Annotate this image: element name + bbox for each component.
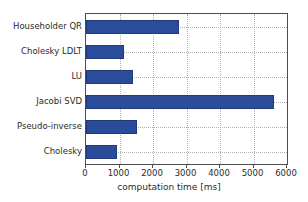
x-axis-tick-label: 4000 xyxy=(208,168,230,179)
y-axis-tick-label: Cholesky LDLT xyxy=(2,46,82,56)
y-axis-tick-label: LU xyxy=(2,71,82,81)
gridline-vertical xyxy=(287,14,288,164)
x-axis-tick-labels: 0100020003000400050006000 xyxy=(85,168,288,180)
y-axis-tick-label: Pseudo-inverse xyxy=(2,121,82,131)
y-axis-tick-label: Cholesky xyxy=(2,146,82,156)
bar xyxy=(86,120,137,134)
gridline-vertical xyxy=(120,14,121,164)
y-axis-tick-labels: Householder QRCholesky LDLTLUJacobi SVDP… xyxy=(0,13,82,165)
gridline-vertical xyxy=(153,14,154,164)
bar xyxy=(86,20,179,34)
y-axis-tick-label: Householder QR xyxy=(2,21,82,31)
gridline-vertical xyxy=(254,14,255,164)
gridline-vertical xyxy=(187,14,188,164)
bar-chart-figure: Householder QRCholesky LDLTLUJacobi SVDP… xyxy=(0,0,308,202)
bar xyxy=(86,45,124,59)
y-axis-tick-label: Jacobi SVD xyxy=(2,96,82,106)
x-axis-tick-label: 1000 xyxy=(108,168,130,179)
x-axis-tick-label: 6000 xyxy=(275,168,297,179)
plot-area xyxy=(85,13,288,165)
bar xyxy=(86,70,133,84)
x-axis-tick-label: 2000 xyxy=(141,168,163,179)
x-axis-tick-label: 0 xyxy=(82,168,87,179)
x-axis-tick-label: 3000 xyxy=(175,168,197,179)
bar xyxy=(86,145,117,159)
x-axis-title: computation time [ms] xyxy=(0,182,308,192)
x-axis-tick-label: 5000 xyxy=(242,168,264,179)
gridline-vertical xyxy=(220,14,221,164)
bar xyxy=(86,95,274,109)
